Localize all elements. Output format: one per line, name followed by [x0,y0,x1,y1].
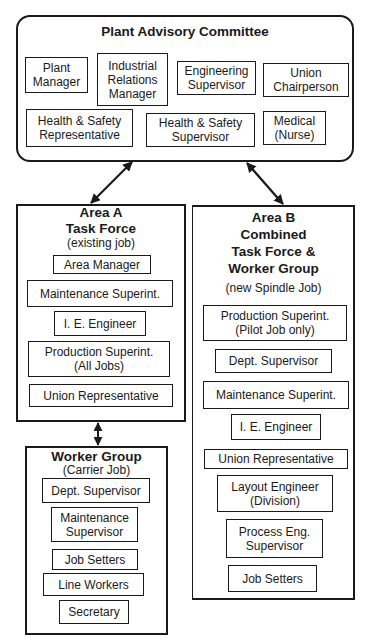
area-a-member-union-representative: Union Representative [29,384,173,407]
worker-group-member-dept-supervisor: Dept. Supervisor [42,478,150,503]
worker-group-subtitle: (Carrier Job) [25,463,168,477]
area-b-member-layout-engineer: Layout Engineer (Division) [217,475,333,512]
arrow-committee-to-area-b-icon [247,163,283,204]
committee-member-health-safety-representative: Health & Safety Representative [26,109,133,147]
area-b-member-job-setters: Job Setters [228,565,317,592]
area-a-member-ie-engineer: I. E. Engineer [54,311,146,336]
area-b-title: Area B Combined Task Force & Worker Grou… [192,209,355,277]
area-b-member-maintenance-superint: Maintenance Superint. [203,381,349,409]
committee-title: Plant Advisory Committee [16,24,354,40]
area-b-member-ie-engineer: I. E. Engineer [231,414,321,440]
area-b-member-process-eng-supervisor: Process Eng. Supervisor [226,519,323,558]
arrow-committee-to-area-a-icon [91,162,132,203]
area-a-member-maintenance-superint: Maintenance Superint. [27,280,173,307]
committee-member-industrial-relations-manager: Industrial Relations Manager [97,53,168,106]
committee-member-plant-manager: Plant Manager [25,57,88,93]
committee-member-engineering-supervisor: Engineering Supervisor [177,61,256,95]
area-b-member-union-representative: Union Representative [204,449,348,469]
committee-member-health-safety-supervisor: Health & Safety Supervisor [146,113,255,147]
area-a-subtitle: (existing job) [16,236,186,250]
worker-group-member-line-workers: Line Workers [43,573,144,596]
area-a-title: Area A Task Force [16,205,186,237]
committee-member-medical-nurse: Medical (Nurse) [263,111,326,145]
worker-group-member-job-setters: Job Setters [52,549,138,570]
area-b-member-production-superint: Production Superint. (Pilot Job only) [203,305,347,341]
area-b-subtitle: (new Spindle Job) [192,281,355,295]
worker-group-member-maintenance-supervisor: Maintenance Supervisor [51,507,138,542]
worker-group-member-secretary: Secretary [59,600,129,624]
area-b-member-dept-supervisor: Dept. Supervisor [215,349,332,373]
area-a-member-area-manager: Area Manager [53,255,151,274]
org-diagram: Plant Advisory Committee Plant Manager I… [0,0,369,644]
area-a-member-production-superint: Production Superint. (All Jobs) [28,341,170,377]
committee-member-union-chairperson: Union Chairperson [263,63,349,97]
